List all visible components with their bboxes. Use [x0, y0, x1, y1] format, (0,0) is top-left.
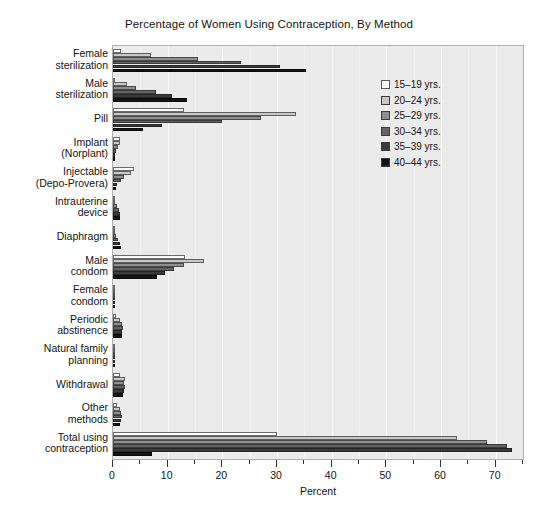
bar — [113, 364, 115, 368]
legend-swatch-icon — [381, 142, 390, 151]
y-axis-label: Intrauterine device — [0, 196, 108, 219]
bar — [113, 246, 121, 250]
gridline-minor — [359, 46, 360, 459]
legend-item[interactable]: 25–29 yrs. — [381, 108, 477, 124]
x-tick — [276, 460, 277, 467]
bar — [113, 216, 120, 220]
chart-title: Percentage of Women Using Contraception,… — [0, 18, 538, 30]
legend-label: 20–24 yrs. — [394, 95, 441, 106]
x-tick — [221, 460, 222, 467]
legend-item[interactable]: 40–44 yrs. — [381, 155, 477, 171]
y-axis-label: Other methods — [0, 402, 108, 425]
gridline — [277, 46, 278, 459]
legend-label: 40–44 yrs. — [394, 157, 441, 168]
gridline — [222, 46, 223, 459]
gridline — [332, 46, 333, 459]
y-axis-label: Diaphragm — [0, 231, 108, 243]
bar — [113, 448, 512, 452]
bar — [113, 305, 115, 309]
x-tick-label: 60 — [434, 469, 446, 481]
x-tick — [440, 460, 441, 467]
legend: 15–19 yrs.20–24 yrs.25–29 yrs.30–34 yrs.… — [381, 77, 477, 170]
x-tick-label: 10 — [161, 469, 173, 481]
bar — [113, 452, 152, 456]
x-tick-label: 70 — [489, 469, 501, 481]
y-axis-label: Male sterilization — [0, 78, 108, 101]
legend-swatch-icon — [381, 96, 390, 105]
legend-item[interactable]: 30–34 yrs. — [381, 124, 477, 140]
legend-label: 25–29 yrs. — [394, 110, 441, 121]
legend-swatch-icon — [381, 127, 390, 136]
y-axis-label: Female sterilization — [0, 48, 108, 71]
x-tick-minor — [194, 460, 195, 464]
legend-label: 15–19 yrs. — [394, 79, 441, 90]
bar — [113, 128, 143, 132]
x-tick-minor — [303, 460, 304, 464]
x-tick-label: 50 — [379, 469, 391, 481]
legend-item[interactable]: 15–19 yrs. — [381, 77, 477, 93]
y-axis-label: Injectable (Depo-Provera) — [0, 166, 108, 189]
gridline-minor — [304, 46, 305, 459]
legend-swatch-icon — [381, 80, 390, 89]
bar — [113, 275, 157, 279]
legend-swatch-icon — [381, 158, 390, 167]
y-axis-label: Periodic abstinence — [0, 314, 108, 337]
x-tick — [495, 460, 496, 467]
y-axis-label: Implant (Norplant) — [0, 137, 108, 160]
x-tick-label: 0 — [109, 469, 115, 481]
gridline — [496, 46, 497, 459]
bar — [113, 69, 306, 73]
legend-label: 35–39 yrs. — [394, 141, 441, 152]
y-axis-label: Pill — [0, 113, 108, 125]
legend-label: 30–34 yrs. — [394, 126, 441, 137]
x-tick-minor — [467, 460, 468, 464]
bar — [113, 393, 123, 397]
legend-item[interactable]: 20–24 yrs. — [381, 93, 477, 109]
x-tick-minor — [358, 460, 359, 464]
bar — [113, 187, 116, 191]
bar — [113, 98, 187, 102]
legend-item[interactable]: 35–39 yrs. — [381, 139, 477, 155]
gridline-minor — [195, 46, 196, 459]
x-tick — [331, 460, 332, 467]
bar — [113, 157, 115, 161]
x-tick-minor — [249, 460, 250, 464]
x-tick-label: 30 — [270, 469, 282, 481]
y-axis-category-labels: Female sterilizationMale sterilizationPi… — [0, 45, 108, 460]
bar — [113, 334, 122, 338]
x-axis-title: Percent — [112, 485, 524, 497]
gridline-minor — [250, 46, 251, 459]
x-tick-label: 20 — [215, 469, 227, 481]
y-axis-label: Male condom — [0, 255, 108, 278]
x-axis: 010203040506070 — [112, 460, 524, 472]
y-axis-label: Natural family planning — [0, 343, 108, 366]
x-tick-minor — [139, 460, 140, 464]
bar — [113, 423, 120, 427]
x-tick-minor — [413, 460, 414, 464]
legend-swatch-icon — [381, 111, 390, 120]
y-axis-label: Total using contraception — [0, 432, 108, 455]
contraception-bar-chart: Percentage of Women Using Contraception,… — [0, 0, 538, 525]
x-tick-label: 40 — [325, 469, 337, 481]
x-tick — [385, 460, 386, 467]
x-tick — [167, 460, 168, 467]
x-tick — [112, 460, 113, 467]
gridline-minor — [523, 46, 524, 459]
y-axis-label: Female condom — [0, 284, 108, 307]
y-axis-label: Withdrawal — [0, 379, 108, 391]
x-tick-minor — [522, 460, 523, 464]
